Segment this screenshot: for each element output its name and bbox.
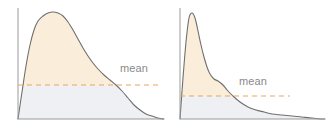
right-mean-label: mean bbox=[239, 75, 267, 87]
left-mean-label: mean bbox=[120, 62, 148, 74]
panel-right-distribution: mean bbox=[180, 8, 325, 119]
distributions-svg: mean mean bbox=[0, 0, 333, 132]
distribution-figure: mean mean bbox=[0, 0, 333, 132]
panel-left-distribution: mean bbox=[18, 8, 164, 119]
